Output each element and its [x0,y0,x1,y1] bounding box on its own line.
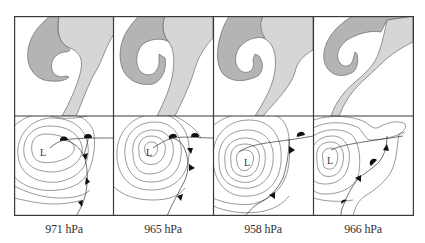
panel-grid-frame [14,16,414,216]
pressure-label-panel-2: 965 hPa [113,222,213,237]
cyclone-evolution-figure: L L [0,0,425,243]
pressure-label-panel-1: 971 hPa [14,222,114,237]
pressure-label-panel-3: 958 hPa [213,222,313,237]
pressure-label-panel-4: 966 hPa [313,222,413,237]
